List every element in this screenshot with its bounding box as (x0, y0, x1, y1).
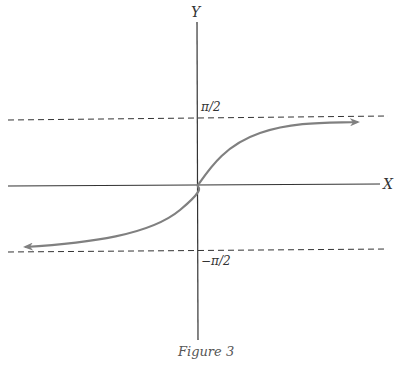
neg-pi-half-label: −π/2 (201, 254, 231, 268)
y-axis (197, 22, 198, 340)
figure-caption: Figure 3 (178, 344, 234, 359)
y-axis-label: Y (191, 4, 200, 20)
x-axis (8, 184, 380, 186)
pi-half-label: π/2 (201, 100, 221, 114)
x-axis-label: X (383, 176, 393, 192)
arctan-graph (0, 0, 400, 370)
upper-asymptote (8, 116, 388, 120)
